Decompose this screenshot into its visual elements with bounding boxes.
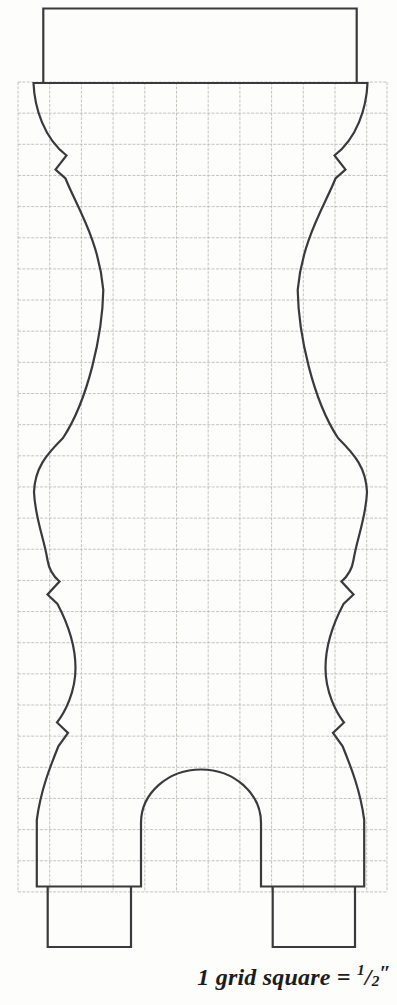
tenon-outline	[43, 9, 356, 84]
scale-fraction-slash: /	[365, 964, 372, 990]
scale-fraction-numerator: 1	[357, 961, 365, 978]
left-foot-outline	[48, 887, 131, 948]
scale-unit-mark: ″	[380, 962, 391, 984]
scale-caption: 1 grid square = 1/2″	[197, 964, 391, 990]
scale-caption-text: 1 grid square =	[197, 964, 357, 990]
pattern-diagram	[0, 0, 397, 1005]
pattern-outline	[34, 83, 368, 887]
scale-fraction-denominator: 2	[372, 972, 380, 989]
right-foot-outline	[273, 887, 355, 948]
pattern-page: 1 grid square = 1/2″	[0, 0, 397, 1005]
